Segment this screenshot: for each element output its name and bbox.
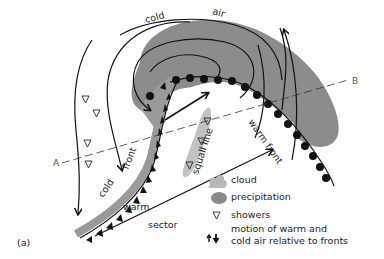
legend-showers-label: showers [231, 209, 270, 220]
label-warm: warm [123, 201, 150, 212]
label-cold-front-cold: cold [96, 177, 116, 199]
shower-triangle-icon [213, 212, 220, 219]
precipitation-swatch-icon [211, 192, 227, 204]
cold-air-flow-left-outer [75, 40, 92, 214]
up-down-arrows-icon [207, 234, 219, 242]
legend-motion-label-line2: cold air relative to fronts [231, 235, 348, 246]
label-sector: sector [148, 219, 178, 230]
legend-motion-label-line1: motion of warm and [231, 223, 327, 234]
panel-label: (a) [17, 237, 30, 248]
legend-cloud-label: cloud [231, 174, 257, 185]
label-cold-air-cold: cold [144, 9, 166, 25]
label-cold-air-air: air [211, 5, 226, 19]
legend-precipitation-label: precipitation [231, 191, 291, 202]
label-section-a: A [53, 158, 60, 168]
label-section-b: B [352, 76, 358, 86]
frontal-cyclone-diagram: cold air cold front warm front squall li… [0, 0, 384, 259]
